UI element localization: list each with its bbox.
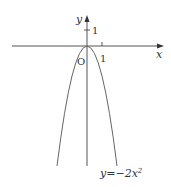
x-tick-label: 1 — [100, 53, 106, 64]
y-tick-label: 1 — [92, 25, 98, 36]
equation-label: y=−2x2 — [99, 167, 143, 180]
y-axis-label: y — [75, 13, 83, 26]
origin-label: O — [77, 56, 85, 67]
x-axis-label: x — [156, 48, 163, 61]
graph-canvas: y 1 x 1 O y=−2x2 — [0, 0, 171, 187]
y-axis-arrow-icon — [85, 15, 90, 22]
